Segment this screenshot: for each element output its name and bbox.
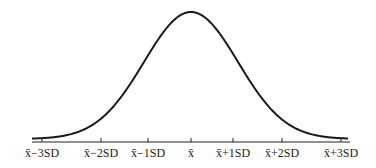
bell-curve: [32, 12, 348, 139]
tick-label-minus-2sd: x̄−2SD: [84, 146, 118, 160]
tick-label-mean: x̄: [188, 146, 194, 160]
tick-label-minus-3sd: x̄−3SD: [25, 146, 59, 160]
tick-labels: x̄−3SD x̄−2SD x̄−1SD x̄ x̄+1SD x̄+2SD x̄…: [25, 146, 358, 160]
tick-label-plus-3sd: x̄+3SD: [324, 146, 358, 160]
tick-label-plus-1sd: x̄+1SD: [216, 146, 250, 160]
tick-label-plus-2sd: x̄+2SD: [265, 146, 299, 160]
tick-label-minus-1sd: x̄−1SD: [131, 146, 165, 160]
normal-curve-diagram: x̄−3SD x̄−2SD x̄−1SD x̄ x̄+1SD x̄+2SD x̄…: [0, 0, 376, 168]
